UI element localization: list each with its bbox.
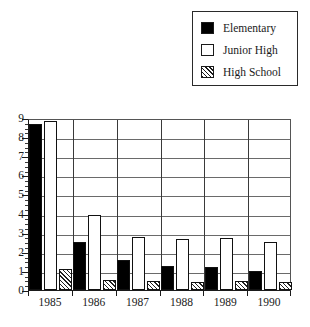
plot-area [28, 119, 291, 291]
bar-junior-high-1988 [176, 239, 189, 290]
bar-elementary-1987 [117, 260, 130, 290]
solid-black-square-icon [201, 22, 214, 34]
x-tick-mark [290, 291, 291, 296]
bar-high-school-1988 [191, 282, 204, 290]
x-axis-tick-labels: 198519861987198819891990 [28, 296, 291, 316]
open-white-square-icon [201, 44, 214, 56]
bar-junior-high-1985 [44, 121, 57, 290]
bar-elementary-1988 [161, 266, 174, 290]
legend-label-junior-high: Junior High [223, 44, 278, 56]
x-tick-mark [203, 291, 204, 296]
bar-chart: 0123456789 198519861987198819891990 [0, 104, 310, 327]
bar-group-1989 [204, 120, 248, 290]
bar-group-1987 [117, 120, 161, 290]
x-tick-label: 1990 [258, 296, 281, 309]
x-tick-label: 1986 [82, 296, 105, 309]
bar-group-1988 [161, 120, 205, 290]
x-tick-label: 1988 [170, 296, 193, 309]
x-tick-mark [160, 291, 161, 296]
legend-entry-junior-high: Junior High [193, 39, 297, 61]
bar-elementary-1986 [73, 242, 86, 290]
bar-junior-high-1987 [132, 237, 145, 291]
bar-elementary-1990 [249, 271, 262, 290]
x-tick-label: 1985 [38, 296, 61, 309]
bar-elementary-1985 [29, 124, 42, 290]
legend-entry-high-school: High School [193, 61, 297, 83]
x-tick-mark [28, 291, 29, 296]
x-tick-label: 1987 [126, 296, 149, 309]
bar-high-school-1987 [147, 281, 160, 290]
x-tick-label: 1989 [214, 296, 237, 309]
legend-entry-elementary: Elementary [193, 17, 297, 39]
bar-high-school-1990 [279, 282, 292, 290]
legend-label-elementary: Elementary [223, 22, 276, 34]
hatched-square-icon [201, 66, 214, 78]
bar-high-school-1985 [59, 269, 72, 290]
x-tick-mark [116, 291, 117, 296]
bar-group-1986 [73, 120, 117, 290]
bar-high-school-1989 [235, 281, 248, 290]
bar-high-school-1986 [103, 280, 116, 290]
bar-junior-high-1990 [264, 242, 277, 290]
bar-group-1985 [29, 120, 73, 290]
x-tick-mark [72, 291, 73, 296]
bar-elementary-1989 [205, 267, 218, 290]
chart-legend: Elementary Junior High High School [192, 11, 298, 86]
legend-label-high-school: High School [223, 66, 281, 78]
bar-junior-high-1989 [220, 238, 233, 290]
bar-group-1990 [248, 120, 292, 290]
x-tick-mark [247, 291, 248, 296]
bar-junior-high-1986 [88, 215, 101, 290]
